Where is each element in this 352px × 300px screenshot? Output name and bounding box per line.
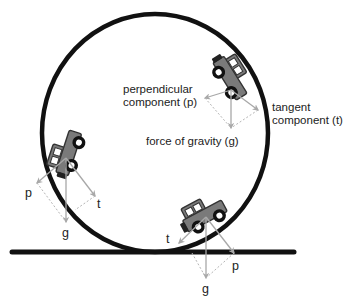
label-left-t: t — [97, 197, 101, 211]
label-tangent-line2: component (t) — [272, 114, 343, 126]
loop-force-diagram: perpendicular component (p) tangent comp… — [0, 0, 352, 300]
label-perpendicular-line2: component (p) — [123, 96, 197, 108]
label-bottom-p: p — [232, 259, 239, 273]
label-bottom-g: g — [202, 282, 209, 296]
car-bottom — [174, 190, 231, 239]
label-left-p: p — [25, 186, 32, 200]
label-tangent-line1: tangent — [272, 101, 311, 113]
label-bottom-t: t — [166, 232, 170, 246]
label-perpendicular-line1: perpendicular — [123, 83, 193, 95]
label-gravity: force of gravity (g) — [146, 135, 239, 147]
force-vectors-upper-right — [205, 90, 258, 128]
label-left-g: g — [62, 226, 69, 240]
